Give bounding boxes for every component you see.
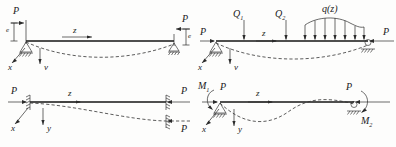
left-support-hatching [20, 53, 32, 57]
right-support-hatching [169, 52, 180, 55]
y-axis-arrowhead [41, 120, 44, 125]
panel-case-2: P P Q1 Q2 q(z) z x v [198, 0, 396, 74]
z-axis-arrowhead [87, 35, 92, 38]
left-load-arrowhead [213, 100, 218, 104]
v-axis-arrowhead [38, 59, 41, 64]
panel-case-1: P e P e z x v [0, 0, 198, 74]
case-3-y-axis-label: y [47, 124, 51, 133]
case-2-load-left-label: P [200, 27, 206, 37]
deflection-curve [220, 100, 354, 122]
left-load-arrowhead [19, 21, 24, 25]
x-axis-arrowhead [15, 120, 20, 125]
case-3-drawing [0, 74, 198, 147]
z-axis-arrowhead [272, 39, 277, 42]
case-1-v-axis-label: v [44, 63, 48, 72]
case-4-drawing [198, 74, 396, 147]
left-pin-support [210, 42, 222, 52]
v-axis-arrowhead [228, 59, 231, 64]
case-4-moment-left-label: M1 [198, 81, 209, 93]
case-2-x-axis-label: x [198, 63, 202, 72]
case-1-load-left-label: P [13, 6, 19, 16]
case-1-eccentricity-right-label: e [188, 33, 191, 40]
q1-arrowhead [242, 35, 245, 41]
left-load-arrowhead [22, 100, 27, 104]
case-4-z-axis-label: z [256, 89, 260, 98]
case-2-q1-label: Q1 [233, 9, 243, 21]
case-1-drawing [0, 0, 198, 74]
right-load-arrowhead [369, 39, 374, 43]
deflection-curve [216, 43, 368, 59]
case-1-x-axis-label: x [8, 63, 12, 72]
case-1-eccentricity-left-label: e [6, 27, 9, 34]
deflection-curve [26, 42, 174, 57]
case-3-load-left-label: P [11, 86, 17, 96]
case-3-z-axis-label: z [68, 89, 72, 98]
case-2-load-right-label: P [383, 27, 389, 37]
left-support-hatching [214, 114, 226, 118]
case-2-q2-label: Q2 [275, 9, 285, 21]
m2-moment-arrowhead [361, 108, 367, 113]
distributed-load-arrows [303, 18, 365, 41]
z-axis-arrowhead [268, 100, 273, 103]
figure-sheet: P e P e z x v [0, 0, 396, 147]
right-support-hatching [348, 111, 360, 115]
left-pin-support [214, 103, 226, 113]
case-4-x-axis-label: x [202, 125, 206, 134]
case-4-load-right-label: P [346, 82, 352, 92]
x-axis-arrowhead [206, 121, 211, 126]
case-2-z-axis-label: z [262, 29, 266, 38]
case-2-v-axis-label: v [234, 63, 238, 72]
right-upper-load-arrowhead [167, 100, 172, 104]
case-3-x-axis-label: x [11, 124, 15, 133]
case-1-load-right-label: P [182, 14, 188, 24]
y-axis-arrowhead [232, 121, 235, 126]
case-1-z-axis-label: z [73, 26, 77, 35]
right-support-hatching [362, 49, 374, 53]
case-3-load-right-upper-label: P [181, 86, 187, 96]
panel-case-4: M1 P M2 P z x y [198, 74, 396, 147]
case-4-moment-right-label: M2 [361, 116, 372, 128]
case-3-load-right-lower-label: P [181, 124, 187, 134]
panel-case-3: P P P z x y [0, 74, 198, 147]
right-load-arrowhead [176, 27, 181, 31]
left-support-hatching [210, 53, 222, 57]
x-axis-arrowhead [12, 59, 17, 64]
case-4-y-axis-label: y [238, 125, 242, 134]
distributed-load-profile [305, 18, 364, 27]
case-2-distributed-load-label: q(z) [322, 4, 338, 14]
right-lower-wall-hatching [166, 115, 170, 129]
m1-moment-arrowhead [208, 106, 213, 110]
case-2-drawing [198, 0, 396, 74]
x-axis-arrowhead [202, 59, 207, 64]
deflection-curve [30, 103, 166, 121]
q2-arrowhead [284, 35, 287, 41]
case-4-load-left-label: P [220, 82, 226, 92]
z-axis-arrowhead [76, 100, 81, 103]
left-load-arrowhead [210, 39, 215, 43]
